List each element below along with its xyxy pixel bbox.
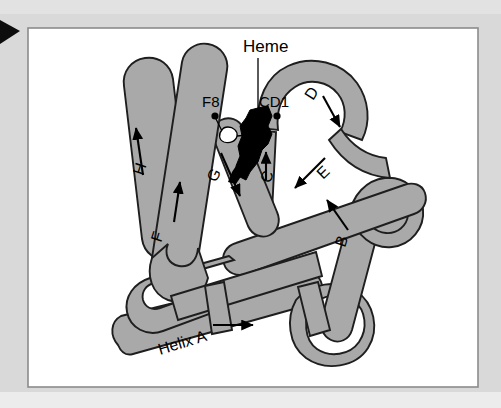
page-band-top [0,0,501,14]
page-band-bottom [0,392,501,408]
myoglobin-diagram: Heme F8 CD1 D H G F C E B Helix A [0,0,501,408]
label-cd1: CD1 [259,93,289,110]
label-heme: Heme [243,37,288,56]
label-f8: F8 [202,93,220,110]
f8-residue-dot [211,112,218,119]
figure-page: Heme F8 CD1 D H G F C E B Helix A [0,0,501,408]
cd1-residue-dot [273,112,280,119]
